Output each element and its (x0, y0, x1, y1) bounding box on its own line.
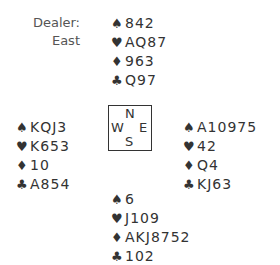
dealer-label: Dealer: (10, 14, 80, 32)
east-clubs: KJ63 (197, 176, 232, 192)
compass-south: S (125, 134, 133, 149)
east-diamonds: Q4 (197, 157, 219, 173)
compass-north: N (125, 106, 135, 121)
dealer-value: East (10, 32, 80, 50)
east-spades: A10975 (197, 119, 257, 135)
west-hand: ♠KQJ3 ♥K653 ♦10 ♣A854 (16, 118, 70, 194)
spade-icon: ♠ (183, 118, 197, 137)
west-hearts: K653 (30, 138, 70, 154)
east-hearts: 42 (197, 138, 217, 154)
compass-box: N W E S (108, 105, 152, 151)
east-hand: ♠A10975 ♥42 ♦Q4 ♣KJ63 (183, 118, 257, 194)
west-clubs: A854 (30, 176, 70, 192)
compass-east: E (139, 120, 147, 135)
diamond-icon: ♦ (111, 228, 125, 247)
north-spades: 842 (125, 15, 155, 31)
south-hearts: J109 (125, 210, 160, 226)
heart-icon: ♥ (16, 137, 30, 156)
west-diamonds: 10 (30, 157, 50, 173)
spade-icon: ♠ (111, 190, 125, 209)
north-diamonds: 963 (125, 53, 155, 69)
club-icon: ♣ (111, 247, 125, 265)
south-diamonds: AKJ8752 (125, 229, 191, 245)
south-hand: ♠6 ♥J109 ♦AKJ8752 ♣102 (111, 190, 191, 265)
heart-icon: ♥ (183, 137, 197, 156)
diamond-icon: ♦ (183, 156, 197, 175)
compass-west: W (111, 120, 124, 135)
north-hearts: AQ87 (125, 34, 167, 50)
club-icon: ♣ (16, 175, 30, 194)
north-hand: ♠842 ♥AQ87 ♦963 ♣Q97 (111, 14, 167, 90)
spade-icon: ♠ (111, 14, 125, 33)
north-clubs: Q97 (125, 72, 157, 88)
diamond-icon: ♦ (111, 52, 125, 71)
west-spades: KQJ3 (30, 119, 67, 135)
diamond-icon: ♦ (16, 156, 30, 175)
heart-icon: ♥ (111, 209, 125, 228)
club-icon: ♣ (111, 71, 125, 90)
spade-icon: ♠ (16, 118, 30, 137)
south-spades: 6 (125, 191, 135, 207)
south-clubs: 102 (125, 248, 155, 264)
dealer-info: Dealer: East (10, 14, 80, 50)
heart-icon: ♥ (111, 33, 125, 52)
